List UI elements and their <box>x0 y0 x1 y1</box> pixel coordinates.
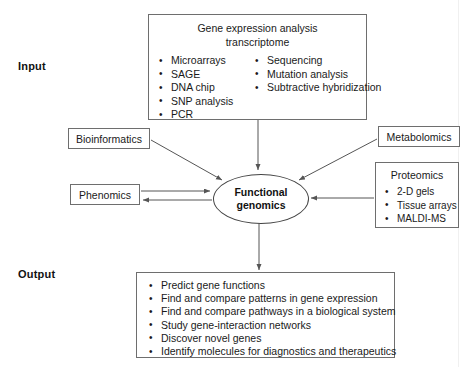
list-item: Find and compare pathways in a biologica… <box>148 305 394 318</box>
list-item: MALDI-MS <box>384 212 458 226</box>
list-item: Sequencing <box>254 54 366 68</box>
output-box: Predict gene functions Find and compare … <box>136 272 395 358</box>
list-item: 2-D gels <box>384 185 458 199</box>
stage-label-output: Output <box>18 268 55 280</box>
list-item: Discover novel genes <box>148 332 394 345</box>
list-item: Subtractive hybridization <box>254 81 366 95</box>
list-item: Microarrays <box>158 54 254 68</box>
functional-genomics-node: Functional genomics <box>213 174 309 224</box>
list-item: PCR <box>158 108 254 122</box>
phenomics-node: Phenomics <box>70 184 140 205</box>
gene-expression-list-right: Sequencing Mutation analysis Subtractive… <box>254 54 366 122</box>
connector-bioinformatics-to-center <box>151 140 222 180</box>
functional-genomics-label-line1: Functional <box>234 186 287 199</box>
list-item: Study gene-interaction networks <box>148 319 394 332</box>
bioinformatics-node: Bioinformatics <box>68 128 150 149</box>
proteomics-list: 2-D gels Tissue arrays MALDI-MS <box>376 185 458 226</box>
gene-expression-title-line2: transcriptome <box>149 35 366 49</box>
list-item: Predict gene functions <box>148 279 394 292</box>
output-list: Predict gene functions Find and compare … <box>137 279 394 358</box>
connector-metabolomics-to-center <box>299 139 377 180</box>
gene-expression-title-line1: Gene expression analysis <box>149 21 366 35</box>
list-item: Tissue arrays <box>384 199 458 213</box>
list-item: Identify molecules for diagnostics and t… <box>148 345 394 358</box>
gene-expression-list-left: Microarrays SAGE DNA chip SNP analysis P… <box>158 54 254 122</box>
bioinformatics-label: Bioinformatics <box>69 129 149 148</box>
functional-genomics-diagram: Input Output Gene expression analysis tr… <box>0 0 467 367</box>
list-item: Mutation analysis <box>254 68 366 82</box>
metabolomics-label: Metabolomics <box>379 127 459 146</box>
stage-label-input: Input <box>18 60 46 72</box>
functional-genomics-label-line2: genomics <box>236 199 285 212</box>
list-item: Find and compare patterns in gene expres… <box>148 292 394 305</box>
phenomics-label: Phenomics <box>71 185 139 204</box>
list-item: SNP analysis <box>158 95 254 109</box>
proteomics-title: Proteomics <box>376 168 458 182</box>
gene-expression-columns: Microarrays SAGE DNA chip SNP analysis P… <box>149 54 366 122</box>
metabolomics-node: Metabolomics <box>378 126 460 147</box>
list-item: SAGE <box>158 68 254 82</box>
gene-expression-analysis-box: Gene expression analysis transcriptome M… <box>148 14 367 120</box>
proteomics-box: Proteomics 2-D gels Tissue arrays MALDI-… <box>375 162 459 228</box>
list-item: DNA chip <box>158 81 254 95</box>
